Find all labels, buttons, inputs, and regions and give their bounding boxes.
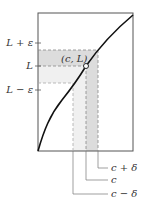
leader-c-plus xyxy=(98,151,108,168)
label-c: c xyxy=(111,174,117,185)
label-c-plus-delta: c + δ xyxy=(111,162,137,173)
point-c-L xyxy=(84,64,89,69)
epsilon-delta-diagram: L + ε L L − ε (c, L) c + δ c c − δ xyxy=(0,0,144,213)
delta-band-right xyxy=(86,66,98,151)
label-L-minus-eps: L − ε xyxy=(5,84,33,95)
label-point: (c, L) xyxy=(61,53,88,64)
epsilon-band-lower xyxy=(38,66,86,83)
leader-c-minus xyxy=(73,151,108,194)
delta-band-left xyxy=(73,83,86,151)
label-L: L xyxy=(25,60,33,71)
label-L-plus-eps: L + ε xyxy=(5,37,33,48)
label-c-minus-delta: c − δ xyxy=(111,188,137,199)
leader-c xyxy=(86,151,108,180)
